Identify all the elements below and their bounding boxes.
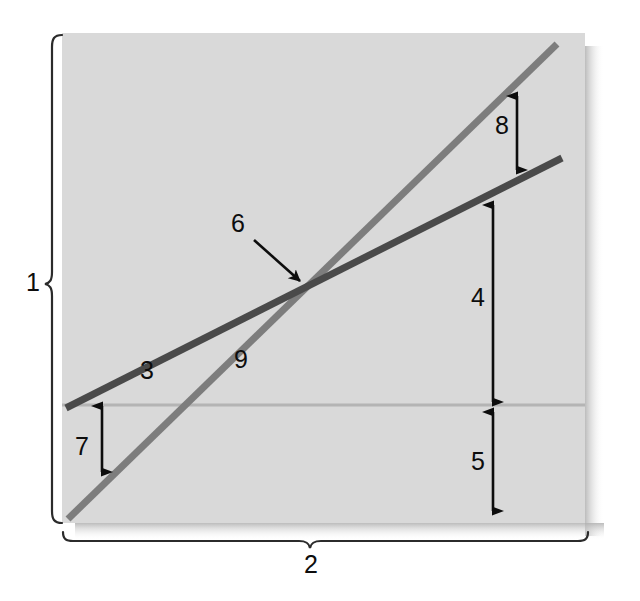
callout-label-6: 6	[231, 209, 245, 237]
brace-label-1: 1	[26, 268, 40, 296]
series-label-3: 3	[140, 356, 154, 384]
measure-label-7: 7	[75, 432, 89, 460]
figure-container: 1 2 3 9 6 8 4 5 7	[0, 0, 640, 601]
vertical-axis-brace	[45, 35, 62, 523]
line-diagram-svg: 1 2 3 9 6 8 4 5 7	[0, 0, 640, 601]
series-label-9: 9	[234, 345, 248, 373]
measure-label-4: 4	[471, 283, 485, 311]
measure-label-5: 5	[471, 447, 485, 475]
brace-label-2: 2	[304, 550, 318, 578]
measure-label-8: 8	[495, 111, 509, 139]
